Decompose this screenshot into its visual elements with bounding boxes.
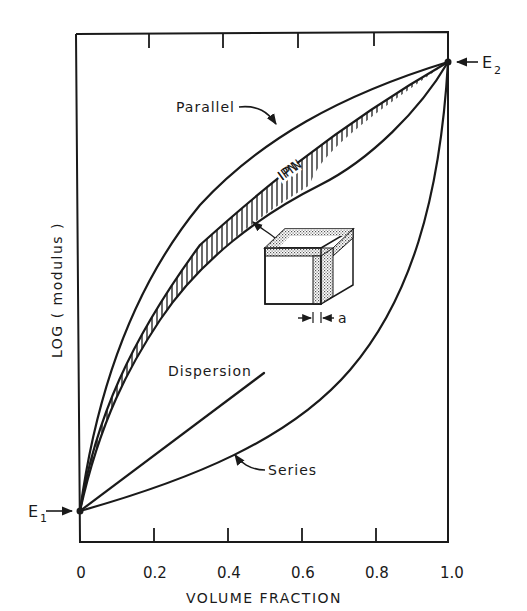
ipn-upper-curve	[80, 62, 448, 511]
x-axis-ticks	[154, 528, 376, 542]
e2-annotation: E 2	[457, 53, 501, 77]
e1-label: E	[28, 502, 38, 521]
series-curve	[80, 62, 448, 511]
x-tick-label: 0	[76, 564, 86, 582]
x-tick-label: 0.4	[217, 564, 241, 582]
x-tick-label: 0.6	[291, 564, 315, 582]
parallel-label: Parallel	[176, 99, 235, 115]
plot-frame	[76, 32, 448, 542]
x-tick-label: 0.8	[365, 564, 389, 582]
x-tick-label: 0.2	[143, 564, 167, 582]
dispersion-label: Dispersion	[168, 363, 252, 379]
series-annotation: Series	[235, 455, 317, 478]
e1-subscript: 1	[40, 512, 47, 525]
e2-subscript: 2	[494, 64, 501, 77]
x-tick-labels: 0 0.2 0.4 0.6 0.8 1.0	[76, 564, 464, 582]
chart-canvas: 0 0.2 0.4 0.6 0.8 1.0 VOLUME FRACTION LO…	[0, 0, 527, 611]
x-axis-title: VOLUME FRACTION	[186, 590, 342, 606]
ipn-band	[80, 62, 448, 511]
y-axis-title: LOG ( modulus )	[49, 222, 65, 358]
top-axis-ticks	[149, 33, 374, 48]
cube-inset: a	[253, 222, 353, 326]
x-tick-label: 1.0	[440, 564, 464, 582]
e1-point	[77, 508, 84, 515]
e1-annotation: E 1	[28, 502, 72, 525]
dispersion-line	[80, 373, 264, 511]
parallel-curve	[80, 62, 448, 511]
ipn-lower-curve	[80, 62, 448, 511]
parallel-annotation: Parallel	[176, 99, 276, 124]
e2-label: E	[482, 53, 492, 72]
thickness-label: a	[338, 310, 347, 326]
series-label: Series	[268, 462, 317, 478]
e2-point	[445, 59, 452, 66]
